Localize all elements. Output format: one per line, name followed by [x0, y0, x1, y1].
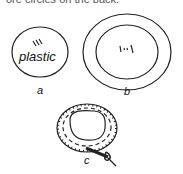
diagram-canvas — [0, 0, 183, 174]
figure-b-concentric-ovals — [83, 14, 171, 90]
figure-c-label: c — [84, 154, 90, 166]
figure-a-label: a — [37, 84, 43, 96]
figure-b-label: b — [124, 85, 130, 97]
plastic-label: plastic — [19, 49, 56, 64]
